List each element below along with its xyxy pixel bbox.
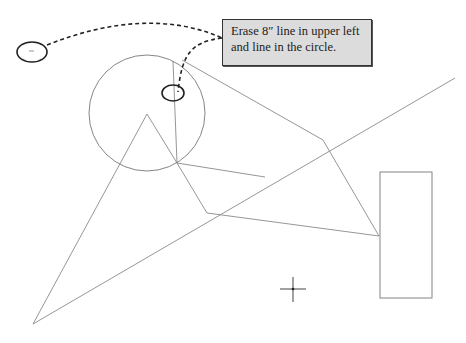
lower-vertex-line bbox=[177, 163, 207, 213]
long-diagonal-line bbox=[33, 78, 455, 324]
short-connector-line bbox=[177, 163, 265, 177]
callout-line-1: Erase 8″ line in upper left bbox=[231, 24, 365, 40]
callout-box: Erase 8″ line in upper left and line in … bbox=[222, 19, 372, 66]
leader-line-circle bbox=[178, 38, 222, 92]
callout-line-2: and line in the circle. bbox=[231, 40, 365, 56]
line-to-rectangle-upper bbox=[323, 140, 379, 236]
line-in-circle bbox=[173, 61, 177, 163]
large-circle bbox=[89, 55, 205, 171]
triangle-right-edge bbox=[147, 114, 177, 163]
rectangle bbox=[380, 172, 432, 298]
crosshair-icon bbox=[280, 277, 306, 302]
leader-line-upper-left bbox=[47, 23, 222, 45]
line-to-rectangle-lower bbox=[207, 213, 379, 236]
triangle-left-edge bbox=[33, 114, 147, 324]
marker-ellipse-in-circle bbox=[162, 85, 184, 101]
marker-ellipse-upper-left bbox=[17, 42, 47, 62]
